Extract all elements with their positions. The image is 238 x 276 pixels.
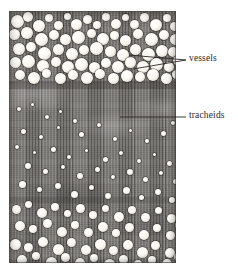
vessel-pore-small: [57, 126, 60, 129]
vessel-pore: [71, 221, 79, 229]
vessel-pore: [133, 260, 143, 263]
micrograph-plate: [9, 11, 176, 263]
vessel-pore: [26, 42, 36, 52]
vessel-pore: [90, 254, 98, 262]
vessel-pore: [130, 20, 139, 29]
vessel-pore: [162, 259, 172, 263]
vessel-pore: [17, 255, 27, 263]
vessel-pore: [9, 29, 20, 40]
vessel-pore-small: [143, 177, 148, 182]
vessel-pore: [76, 204, 85, 213]
vessel-pore-small: [59, 110, 62, 113]
vessel-pore: [128, 206, 136, 214]
vessel-pore: [137, 247, 148, 258]
vessel-pore: [66, 48, 78, 60]
vessel-pore-small: [167, 161, 172, 166]
vessel-pore: [12, 205, 21, 214]
vessel-pore: [148, 256, 156, 263]
vessel-pore-small: [67, 155, 71, 159]
vessel-pore-small: [45, 115, 49, 119]
vessel-pore-small: [85, 149, 88, 152]
vessel-pore: [72, 31, 85, 44]
vessel-pore: [133, 29, 143, 39]
vessel-pore-small: [119, 151, 123, 155]
vessel-pore-small: [123, 187, 130, 194]
vessel-pore-small: [43, 169, 48, 174]
vessel-pore: [28, 72, 40, 84]
vessel-pore-small: [89, 185, 94, 190]
vessel-pore: [33, 20, 45, 32]
vessel-pore: [111, 19, 121, 29]
vessel-pore: [49, 30, 59, 40]
vessel-pore: [108, 73, 119, 84]
vessel-pore: [112, 229, 120, 237]
annotation-label-tracheids: tracheids: [189, 110, 225, 121]
vessel-pore: [35, 33, 48, 46]
vessel-pore: [156, 45, 168, 57]
vessel-pore: [150, 19, 162, 31]
vessel-pore: [123, 240, 133, 250]
vessel-pore: [51, 203, 59, 211]
vessel-pore: [54, 21, 63, 30]
vessel-pore: [161, 73, 172, 84]
vessel-pore: [61, 253, 70, 262]
vessel-pore: [141, 213, 150, 222]
vessel-pore: [84, 228, 93, 237]
vessel-pore: [24, 243, 33, 252]
vessel-pore: [15, 70, 25, 80]
vessel-pore: [64, 13, 71, 20]
vessel-pore: [173, 56, 176, 65]
vessel-pore: [75, 58, 88, 71]
vessel-pore: [104, 259, 115, 263]
vessel-pore: [95, 239, 106, 250]
vessel-pore: [151, 241, 160, 250]
vessel-pore-small: [31, 103, 34, 106]
vessel-pore-small: [61, 165, 65, 169]
vessel-pore-small: [173, 179, 176, 184]
vessel-pore: [135, 72, 145, 82]
vessel-pore: [93, 21, 101, 29]
vessel-pore-small: [145, 139, 149, 143]
vessel-pore-small: [113, 137, 117, 141]
vessel-pore-small: [139, 195, 144, 200]
vessel-pore-small: [55, 183, 61, 189]
vessel-pore: [81, 72, 93, 84]
vessel-pore: [166, 231, 175, 240]
vessel-pore: [46, 257, 57, 263]
vessel-pore: [145, 33, 158, 46]
vessel-pore: [23, 12, 33, 22]
vessel-pore: [29, 225, 37, 233]
vessel-pore-small: [171, 121, 175, 125]
vessel-pore-small: [111, 175, 115, 179]
vessel-pore: [57, 227, 67, 237]
vessel-pore-small: [129, 129, 132, 132]
vessel-pore: [167, 214, 176, 223]
vessel-pore: [10, 239, 21, 250]
vessel-pore-small: [51, 147, 56, 152]
vessel-pore-small: [39, 135, 43, 139]
vessel-pore: [89, 211, 97, 219]
vessel-pore-small: [79, 132, 84, 137]
vessel-pore: [90, 42, 103, 55]
vessel-pore-small: [25, 163, 31, 169]
vessel-pore: [139, 230, 149, 240]
vessel-pore: [75, 258, 85, 263]
figure-micrograph-wood-section: vessels tracheids: [0, 0, 238, 276]
vessel-pore: [121, 70, 133, 82]
vessel-pore: [87, 29, 96, 38]
vessel-pore-small: [71, 191, 78, 198]
vessel-pore: [174, 253, 176, 261]
vessel-pore-small: [33, 151, 36, 154]
vessel-pore-small: [159, 171, 163, 175]
vessel-pore: [67, 238, 76, 247]
vessel-pore: [175, 222, 176, 229]
vessel-pore-small: [19, 181, 26, 188]
vessel-pore-small: [155, 189, 161, 195]
vessel-pore: [109, 246, 118, 255]
vessel-pore: [71, 19, 82, 30]
vessel-pore: [79, 45, 89, 55]
vessel-pore: [102, 205, 109, 212]
vessel-pore-small: [77, 173, 83, 179]
vessel-pore: [170, 22, 176, 31]
vessel-pore: [170, 34, 176, 45]
